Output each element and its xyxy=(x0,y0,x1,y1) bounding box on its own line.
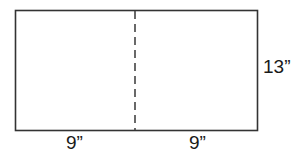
outer-rectangle xyxy=(16,11,258,131)
folded-rectangle-diagram xyxy=(0,0,304,153)
left-width-label: 9” xyxy=(66,133,83,152)
right-width-label: 9” xyxy=(189,133,206,152)
height-label: 13” xyxy=(263,57,290,76)
